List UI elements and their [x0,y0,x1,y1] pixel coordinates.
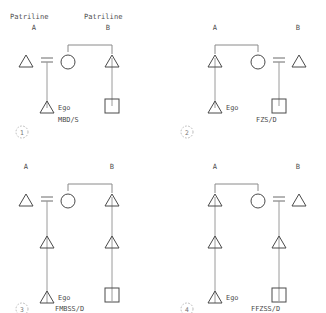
symbol-female-circle [61,194,75,208]
panel-1-code-label: MBD/S [58,116,79,124]
marriage-equals-sign [273,58,285,62]
panel-4: A B Ego FFZSS/ [163,157,326,313]
panel-3-code-label: FMBSS/D [55,305,84,313]
panel-4-code-label: FFZSS/D [251,305,280,313]
symbol-male-triangle [19,194,33,206]
sibling-link-bar [68,184,112,193]
panel-1-left-header-line2: A [32,23,37,32]
panel-4-ego-label: Ego [226,294,238,302]
symbol-female-circle [251,55,265,69]
panel-2-right-label: B [296,23,300,32]
panel-2-code-label: FZS/D [256,116,277,124]
panel-2-number: 2 [185,129,189,137]
marriage-equals-sign [41,58,53,62]
panel-1-right-header-line1: Patriline [84,12,122,21]
marriage-equals-sign [273,197,285,201]
panel-3-ego-label: Ego [58,294,70,302]
sibling-link-bar [215,184,258,193]
sibling-link-bar [68,45,112,54]
symbol-female-circle [61,55,75,69]
sibling-link-bar [215,45,258,54]
panel-3-left-label: A [24,162,29,171]
panel-4-right-label: B [296,162,300,171]
panel-3-number: 3 [20,306,24,313]
marriage-equals-sign [41,197,53,201]
panel-1-number: 1 [20,129,24,137]
panel-4-left-label: A [213,162,218,171]
symbol-female-circle [251,194,265,208]
panel-1-left-header-line1: Patriline [10,12,48,21]
symbol-male-triangle [292,55,306,67]
panel-2-left-label: A [213,23,218,32]
panel-2-ego-label: Ego [226,104,238,112]
panel-4-number: 4 [185,306,189,313]
symbol-male-triangle [292,194,306,206]
panel-3: A B Ego FMBSS/ [0,157,163,313]
panel-2: A B Ego FZS/D 2 [163,0,326,156]
symbol-male-triangle [19,55,33,67]
panel-3-right-label: B [110,162,114,171]
kinship-figure: Patriline A Patriline B Ego MBD [0,0,326,313]
panel-1-ego-label: Ego [58,104,70,112]
panel-1-right-header-line2: B [106,23,110,32]
panel-1: Patriline A Patriline B Ego MBD [0,0,163,156]
